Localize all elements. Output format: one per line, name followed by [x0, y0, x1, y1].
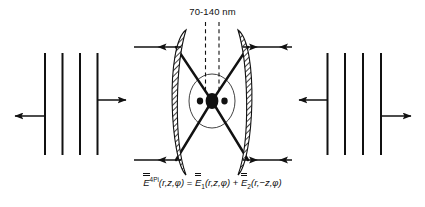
equation-term2-args: (r,−z,φ)	[251, 177, 282, 188]
central-focal-spot	[206, 93, 219, 109]
left-side-lobe	[197, 98, 203, 105]
field-superposition-equation: E4Pi(r,z,φ) = E1(r,z,φ) + E2(r,−z,φ)	[0, 178, 425, 188]
ray-lower-left	[176, 101, 212, 160]
dashed-focal-guides	[206, 22, 220, 93]
equation-lhs-args: (r,z,φ)	[159, 177, 184, 188]
right-objective-lens	[238, 30, 252, 175]
equation-term1-symbol: E	[195, 177, 201, 188]
ray-upper-right	[212, 47, 248, 101]
diagram-canvas	[0, 0, 425, 207]
focal-spot-size-label: 70-140 nm	[0, 7, 425, 17]
equation-term1-args: (r,z,φ)	[205, 177, 230, 188]
ray-upper-left	[176, 47, 212, 101]
equation-term2-vector: E	[241, 178, 247, 188]
left-wavefront-lines	[45, 53, 98, 155]
equation-lhs-vector: E	[143, 178, 149, 188]
figure-4pi-microscope-schematic: 70-140 nm E4Pi(r,z,φ) = E1(r,z,φ) + E2(r…	[0, 0, 425, 207]
ray-lower-right	[212, 101, 248, 160]
equation-term1-vector: E	[195, 178, 201, 188]
left-objective-lens	[172, 30, 186, 175]
right-side-lobe	[221, 98, 227, 105]
equation-lhs-symbol: E	[143, 177, 149, 188]
equation-lhs-superscript: 4Pi	[150, 176, 159, 183]
equation-term2-symbol: E	[241, 177, 247, 188]
right-wavefront-lines	[328, 53, 382, 155]
